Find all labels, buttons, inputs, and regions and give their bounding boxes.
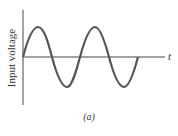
figure-caption: (a) xyxy=(83,111,95,123)
x-axis-label: t xyxy=(168,50,172,62)
sine-wave-diagram: Input voltage t (a) xyxy=(0,0,178,136)
y-axis-label: Input voltage xyxy=(5,29,17,87)
